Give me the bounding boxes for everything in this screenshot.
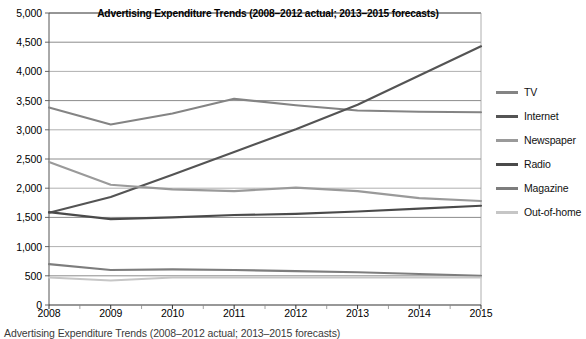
legend-label: Magazine	[524, 182, 568, 194]
x-axis-tick-label: 2015	[470, 307, 493, 319]
legend-color-swatch	[496, 187, 518, 190]
x-axis-tick-label: 2014	[408, 307, 431, 319]
legend-color-swatch	[496, 211, 518, 214]
chart-title: Advertising Expenditure Trends (2008–201…	[92, 8, 444, 20]
y-axis-tick-label: 2,500	[0, 154, 42, 164]
x-axis-tick-label: 2013	[346, 307, 369, 319]
x-axis-tick-label: 2009	[99, 307, 122, 319]
legend-label: Newspaper	[524, 134, 576, 146]
legend-color-swatch	[496, 139, 518, 142]
legend-item-out-of-home[interactable]: Out-of-home	[496, 200, 586, 224]
legend-color-swatch	[496, 115, 518, 118]
legend-label: Radio	[524, 158, 551, 170]
y-axis-tick-label: 2,000	[0, 183, 42, 193]
legend-label: Out-of-home	[524, 206, 581, 218]
y-axis-tick-label: 500	[0, 271, 42, 281]
legend-label: Internet	[524, 110, 558, 122]
chart-legend: TVInternetNewspaperRadioMagazineOut-of-h…	[496, 80, 586, 224]
y-axis-tick-label: 5,000	[0, 8, 42, 18]
legend-item-tv[interactable]: TV	[496, 80, 586, 104]
y-axis-labels: 05001,0001,5002,0002,5003,0003,5004,0004…	[0, 0, 42, 338]
y-axis-tick-label: 3,000	[0, 125, 42, 135]
x-axis-tick-label: 2008	[38, 307, 61, 319]
legend-color-swatch	[496, 163, 518, 166]
legend-item-radio[interactable]: Radio	[496, 152, 586, 176]
y-axis-tick-label: 3,500	[0, 96, 42, 106]
legend-item-magazine[interactable]: Magazine	[496, 176, 586, 200]
x-axis-tick-label: 2010	[161, 307, 184, 319]
x-axis-tick-label: 2011	[223, 307, 245, 319]
legend-label: TV	[524, 86, 537, 98]
y-axis-tick-label: 1,000	[0, 242, 42, 252]
y-axis-tick-label: 4,000	[0, 66, 42, 76]
legend-item-internet[interactable]: Internet	[496, 104, 586, 128]
x-axis-labels: 20082009201020112012201320142015	[0, 307, 586, 323]
legend-item-newspaper[interactable]: Newspaper	[496, 128, 586, 152]
y-axis-tick-label: 4,500	[0, 37, 42, 47]
legend-color-swatch	[496, 91, 518, 94]
x-axis-tick-label: 2012	[284, 307, 307, 319]
y-axis-tick-label: 1,500	[0, 212, 42, 222]
figure-caption: Advertising Expenditure Trends (2008–201…	[4, 327, 340, 339]
